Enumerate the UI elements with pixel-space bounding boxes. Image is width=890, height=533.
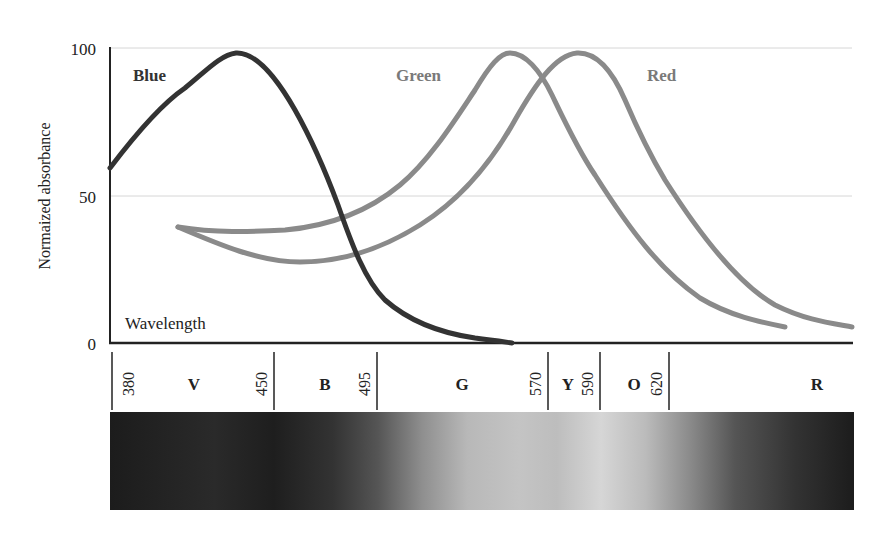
blue-curve-label: Blue [133, 66, 167, 85]
band-num-380: 380 [120, 372, 137, 396]
spectrum-bar [110, 412, 854, 510]
y-tick-50: 50 [79, 188, 96, 207]
band-letter-V: V [188, 375, 201, 394]
band-letter-G: G [455, 375, 468, 394]
band-letter-B: B [319, 375, 330, 394]
wavelength-label: Wavelength [125, 314, 206, 333]
absorbance-chart: 100 50 0 Normaized absorbance Blue Green… [0, 0, 890, 533]
y-tick-0: 0 [88, 335, 97, 354]
band-letter-Y: Y [562, 375, 574, 394]
band-letter-R: R [811, 375, 824, 394]
green-curve [178, 53, 785, 327]
band-num-590: 590 [579, 372, 596, 396]
red-curve-label: Red [647, 66, 677, 85]
red-curve [178, 53, 852, 327]
band-num-620: 620 [648, 372, 665, 396]
y-tick-100: 100 [71, 40, 97, 59]
band-num-450: 450 [253, 372, 270, 396]
band-num-495: 495 [356, 372, 373, 396]
band-num-570: 570 [527, 372, 544, 396]
band-letter-O: O [627, 375, 640, 394]
y-axis-label: Normaized absorbance [36, 122, 53, 269]
green-curve-label: Green [396, 66, 442, 85]
